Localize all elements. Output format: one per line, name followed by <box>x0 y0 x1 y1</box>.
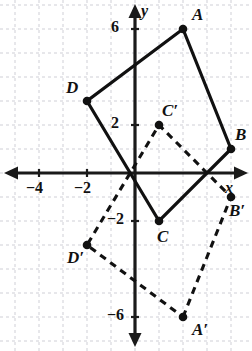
axes <box>4 4 248 347</box>
vertex-dot <box>155 217 164 226</box>
point-label-c-prime: C′ <box>162 102 178 119</box>
plot-svg <box>0 0 252 351</box>
grid-lines <box>0 0 252 351</box>
x-tick-label-minus-4: −4 <box>26 180 43 196</box>
vertex-dot <box>227 145 236 154</box>
point-label-a-prime: A′ <box>192 321 208 338</box>
y-tick-label-minus-2: −2 <box>107 211 124 227</box>
point-label-a: A <box>192 6 203 23</box>
point-label-b-prime: B′ <box>229 202 245 219</box>
vertex-dot <box>155 121 164 130</box>
x-tick-label-minus-2: −2 <box>74 180 91 196</box>
point-label-d: D <box>66 79 78 96</box>
vertex-dot <box>83 97 92 106</box>
point-label-c: C <box>157 228 168 245</box>
point-label-b: B <box>235 126 246 143</box>
y-axis-label: y <box>141 3 148 19</box>
y-tick-label-6: 6 <box>111 19 119 35</box>
y-tick-label-minus-6: −6 <box>107 307 124 323</box>
x-axis-label: x <box>225 180 233 196</box>
coordinate-plane-figure: A B C D A′ B′ C′ D′ x y −4 −2 6 2 −2 −6 <box>0 0 252 351</box>
vertex-dot <box>179 313 188 322</box>
y-tick-label-2: 2 <box>111 115 119 131</box>
vertex-dot <box>179 25 188 34</box>
point-label-d-prime: D′ <box>67 249 84 266</box>
